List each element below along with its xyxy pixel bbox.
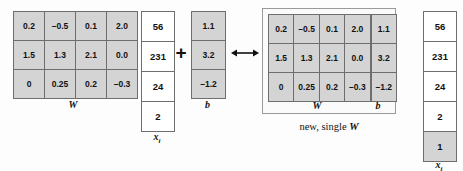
- table-row: 1: [424, 132, 457, 162]
- table-row: 56: [424, 12, 457, 42]
- vector-cell: 3.2: [192, 41, 226, 70]
- table-row: 2: [424, 102, 457, 132]
- table-row: 0 0.25 0.2 –0.3 –1.2: [269, 73, 397, 102]
- plus-icon: +: [173, 44, 189, 62]
- combined-matrix-caption: new, single W: [262, 122, 396, 133]
- appended-one-cell: 1: [424, 132, 457, 162]
- vector-cell: 56: [424, 12, 457, 42]
- left-w-matrix-label: W: [13, 100, 133, 110]
- matrix-cell: –0.3: [107, 70, 138, 99]
- table-row: 0 0.25 0.2 –0.3: [14, 70, 138, 99]
- matrix-cell: 0.0: [107, 41, 138, 70]
- matrix-cell: 1.3: [45, 41, 76, 70]
- matrix-cell: 2.1: [319, 44, 344, 73]
- matrix-cell: –0.3: [345, 73, 371, 102]
- table-row: 231: [142, 42, 175, 72]
- bias-trick-diagram: 0.2 –0.5 0.1 2.0 1.5 1.3 2.1 0.0 0 0.25 …: [0, 0, 463, 171]
- table-row: 0.2 –0.5 0.1 2.0 1.1: [269, 15, 397, 44]
- left-xi-vector: 56 231 24 2: [141, 11, 175, 132]
- matrix-cell: 0.0: [345, 44, 371, 73]
- left-w-matrix: 0.2 –0.5 0.1 2.0 1.5 1.3 2.1 0.0 0 0.25 …: [13, 11, 138, 99]
- vector-cell: 2: [424, 102, 457, 132]
- matrix-cell: 0.2: [319, 73, 344, 102]
- left-xi-vector-label: xi: [141, 132, 173, 145]
- matrix-cell: 0.25: [45, 70, 76, 99]
- table-row: 3.2: [192, 41, 226, 70]
- b-vector: 1.1 3.2 –1.2: [191, 11, 226, 99]
- vector-cell: 231: [424, 42, 457, 72]
- matrix-cell: 0.2: [269, 15, 294, 44]
- table-row: 24: [424, 72, 457, 102]
- combined-w-b-matrix: 0.2 –0.5 0.1 2.0 1.1 1.5 1.3 2.1 0.0 3.2…: [268, 14, 397, 102]
- table-row: 1.1: [192, 12, 226, 41]
- xi-label-subscript: i: [441, 165, 443, 171]
- matrix-cell: 2.1: [76, 41, 107, 70]
- matrix-cell: 0: [14, 70, 45, 99]
- combined-w-label: W: [268, 101, 366, 111]
- matrix-cell: 0: [269, 73, 294, 102]
- vector-cell: –1.2: [192, 70, 226, 99]
- vector-cell: 2: [142, 102, 175, 132]
- b-vector-label: b: [191, 100, 224, 110]
- matrix-cell: 2.0: [107, 12, 138, 41]
- matrix-cell: 0.2: [76, 70, 107, 99]
- caption-symbol: W: [349, 121, 358, 132]
- matrix-cell: 0.25: [294, 73, 319, 102]
- combined-b-label: b: [366, 101, 390, 111]
- matrix-cell: 1.5: [269, 44, 294, 73]
- xi-label-subscript: i: [159, 137, 161, 145]
- right-xi-vector: 56 231 24 2 1: [423, 11, 457, 162]
- bias-cell: 1.1: [371, 15, 397, 44]
- matrix-cell: –0.5: [45, 12, 76, 41]
- table-row: 1.5 1.3 2.1 0.0: [14, 41, 138, 70]
- matrix-cell: 2.0: [345, 15, 371, 44]
- vector-cell: 231: [142, 42, 175, 72]
- double-headed-arrow-icon: [231, 45, 259, 61]
- bias-cell: –1.2: [371, 73, 397, 102]
- bias-cell: 3.2: [371, 44, 397, 73]
- matrix-cell: 1.3: [294, 44, 319, 73]
- matrix-cell: 0.1: [319, 15, 344, 44]
- table-row: 231: [424, 42, 457, 72]
- matrix-cell: 1.5: [14, 41, 45, 70]
- caption-text: new, single: [299, 121, 346, 132]
- vector-cell: 24: [142, 72, 175, 102]
- vector-cell: 1.1: [192, 12, 226, 41]
- table-row: 1.5 1.3 2.1 0.0 3.2: [269, 44, 397, 73]
- vector-cell: 24: [424, 72, 457, 102]
- matrix-cell: –0.5: [294, 15, 319, 44]
- table-row: 56: [142, 12, 175, 42]
- table-row: 0.2 –0.5 0.1 2.0: [14, 12, 138, 41]
- table-row: –1.2: [192, 70, 226, 99]
- vector-cell: 56: [142, 12, 175, 42]
- matrix-cell: 0.2: [14, 12, 45, 41]
- matrix-cell: 0.1: [76, 12, 107, 41]
- table-row: 24: [142, 72, 175, 102]
- table-row: 2: [142, 102, 175, 132]
- right-xi-vector-label: xi: [423, 160, 455, 171]
